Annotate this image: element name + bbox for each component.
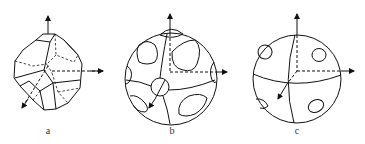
x-axis-arrow: [149, 99, 155, 108]
panel-label-b: b: [162, 125, 182, 136]
polyhedron-diagram: [0, 0, 120, 144]
sphere-facets-diagram: [115, 0, 245, 144]
panel-c: c: [240, 0, 365, 144]
panel-label-c: c: [287, 125, 307, 136]
panel-b: b: [115, 0, 245, 144]
panel-label-a: a: [38, 125, 58, 136]
x-axis-arrow: [278, 84, 287, 99]
x-axis-arrow: [22, 99, 28, 108]
panel-a: a: [0, 0, 120, 144]
sphere-circles-diagram: [240, 0, 365, 144]
